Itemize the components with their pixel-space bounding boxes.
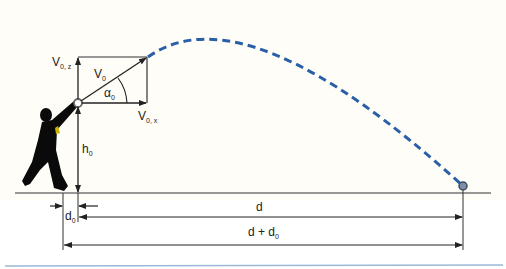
landing-point: [459, 182, 467, 190]
projectile-diagram: V0, z V0 α0 V0, x h0 d0 d d + d0: [0, 0, 506, 269]
label-d-plus-d0: d + d0: [248, 225, 279, 240]
bottom-rule: [5, 265, 503, 266]
label-d: d: [256, 200, 263, 214]
label-d0: d0: [65, 209, 76, 224]
launch-point: [74, 99, 82, 107]
